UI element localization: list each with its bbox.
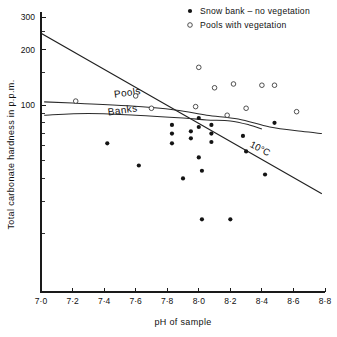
data-point-pools <box>272 83 277 88</box>
x-tick-label: 7·0 <box>35 296 48 306</box>
x-tick-label: 8·0 <box>193 296 206 306</box>
data-point-pools <box>193 104 198 109</box>
data-point-snow-bank <box>189 129 193 133</box>
data-point-pools <box>133 94 138 99</box>
x-tick-label: 8·6 <box>287 296 300 306</box>
trend-lines <box>41 33 322 194</box>
scatter-plot: 7·07·27·47·67·88·08·28·48·68·8100200300 … <box>0 0 337 337</box>
x-axis-title: pH of sample <box>154 317 211 327</box>
data-point-snow-bank <box>170 141 174 145</box>
data-point-snow-bank <box>241 134 245 138</box>
data-point-pools <box>212 85 217 90</box>
x-tick-label: 8·2 <box>224 296 237 306</box>
data-point-snow-bank <box>197 116 201 120</box>
legend: Snow bank – no vegetationPools with vege… <box>188 6 310 30</box>
data-point-snow-bank <box>197 125 201 129</box>
data-point-snow-bank <box>209 131 213 135</box>
data-point-snow-bank <box>200 169 204 173</box>
x-tick-label: 8·8 <box>319 296 332 306</box>
legend-marker-snow-bank <box>188 9 192 13</box>
data-point-snow-bank <box>209 123 213 127</box>
x-tick-label: 7·4 <box>98 296 111 306</box>
x-tick-label: 7·2 <box>66 296 79 306</box>
data-point-snow-bank <box>137 163 141 167</box>
annotation-10c: 10°C <box>248 139 272 159</box>
data-point-snow-bank <box>209 140 213 144</box>
data-point-snow-bank <box>228 217 232 221</box>
data-point-pools <box>73 99 78 104</box>
data-point-snow-bank <box>197 155 201 159</box>
axes <box>41 12 325 292</box>
legend-label: Snow bank – no vegetation <box>200 6 310 16</box>
data-point-pools <box>149 106 154 111</box>
data-point-snow-bank <box>181 176 185 180</box>
data-point-snow-bank <box>272 121 276 125</box>
data-point-pools <box>196 65 201 70</box>
y-axis-title: Total carbonate hardness in p.p.m. <box>6 80 16 230</box>
data-point-pools <box>260 83 265 88</box>
axis-tick-labels: 7·07·27·47·67·88·08·28·48·68·8100200300 <box>21 12 332 306</box>
data-point-pools <box>244 106 249 111</box>
data-point-snow-bank <box>244 149 248 153</box>
data-point-snow-bank <box>170 123 174 127</box>
data-points <box>73 65 298 221</box>
data-point-snow-bank <box>189 136 193 140</box>
y-tick-label: 200 <box>21 45 35 55</box>
axis-frame <box>41 12 325 292</box>
data-point-snow-bank <box>105 141 109 145</box>
y-tick-label: 300 <box>21 12 35 22</box>
x-tick-label: 7·8 <box>161 296 174 306</box>
data-point-pools <box>231 82 236 87</box>
data-point-snow-bank <box>170 131 174 135</box>
legend-label: Pools with vegetation <box>200 20 286 30</box>
y-tick-label: 100 <box>21 100 35 110</box>
data-point-pools <box>225 113 230 118</box>
x-tick-label: 8·4 <box>256 296 269 306</box>
data-point-snow-bank <box>263 172 267 176</box>
data-point-pools <box>294 109 299 114</box>
x-tick-label: 7·6 <box>130 296 143 306</box>
data-point-snow-bank <box>200 217 204 221</box>
legend-marker-pools <box>188 23 193 28</box>
axis-ticks <box>41 17 325 292</box>
chart-figure: 7·07·27·47·67·88·08·28·48·68·8100200300 … <box>0 0 337 337</box>
